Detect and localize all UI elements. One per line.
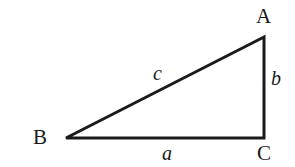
triangle-outline xyxy=(66,37,264,138)
vertex-label-b: B xyxy=(33,127,47,148)
right-triangle-figure: A B C a b c xyxy=(0,0,295,167)
side-label-a: a xyxy=(162,143,172,163)
side-label-b: b xyxy=(271,68,281,88)
vertex-label-a: A xyxy=(256,6,271,27)
vertex-label-c: C xyxy=(257,143,271,164)
side-label-c: c xyxy=(153,63,162,83)
